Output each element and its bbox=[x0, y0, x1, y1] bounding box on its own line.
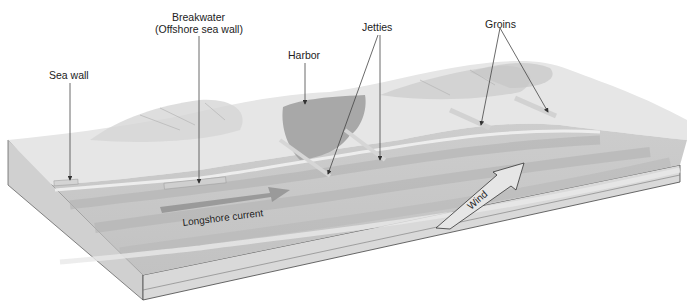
breakwater-label: Breakwater bbox=[172, 11, 226, 23]
groins-label: Groins bbox=[485, 18, 516, 30]
sea-wall-label: Sea wall bbox=[49, 69, 89, 81]
harbor-label: Harbor bbox=[288, 49, 321, 61]
coastal-structures-diagram: Wind Longshore current Sea wall Breakwat… bbox=[0, 0, 687, 307]
breakwater-sublabel: (Offshore sea wall) bbox=[155, 23, 243, 35]
jetties-label: Jetties bbox=[362, 21, 392, 33]
